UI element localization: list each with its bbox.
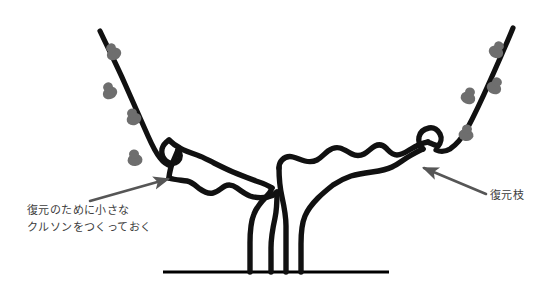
annotation-label-right: 復元枝 xyxy=(490,187,524,204)
trunk-left-inner xyxy=(271,192,277,272)
right-annotation-arrow xyxy=(424,168,486,194)
trunk-right-inner xyxy=(279,168,286,272)
left-annotation-arrow xyxy=(90,179,168,201)
right-arm-upper-edge xyxy=(279,142,428,168)
annotation-label-right-line1: 復元枝 xyxy=(490,187,524,204)
right-spur-stub xyxy=(428,142,438,146)
annotation-label-left-line2: クルソンをつくっておく xyxy=(27,219,151,236)
annotation-arrows xyxy=(90,168,486,201)
diagram-canvas xyxy=(0,0,551,296)
right-shoot-group xyxy=(436,28,513,151)
vine-training-diagram: 復元のために小さな クルソンをつくっておく 復元枝 xyxy=(0,0,551,296)
annotation-label-left-line1: 復元のために小さな xyxy=(27,202,151,219)
trunk-right-outline xyxy=(301,149,423,272)
annotation-label-left: 復元のために小さな クルソンをつくっておく xyxy=(27,202,151,236)
vine-structure xyxy=(162,128,441,272)
